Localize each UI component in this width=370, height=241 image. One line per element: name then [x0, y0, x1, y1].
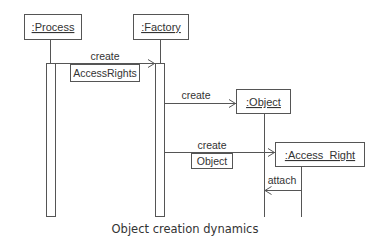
object-label: :Object	[246, 96, 281, 108]
object-process	[25, 15, 82, 217]
process-activation	[47, 64, 56, 217]
message-3-label: create	[197, 139, 226, 151]
figure-caption: Object creation dynamics	[0, 222, 370, 236]
sequence-diagram: :Process :Factory :Object :Access_Right …	[0, 0, 370, 241]
factory-label: :Factory	[141, 21, 181, 33]
message-4-label: attach	[268, 174, 297, 186]
message-1-argument: AccessRights	[73, 67, 137, 79]
process-label: :Process	[32, 21, 75, 33]
access-right-label: :Access_Right	[285, 149, 355, 161]
factory-activation	[156, 64, 165, 217]
message-attach	[265, 187, 301, 195]
message-3-argument: Object	[197, 155, 227, 167]
message-2-label: create	[181, 89, 210, 101]
object-factory	[134, 15, 189, 217]
message-1-label: create	[90, 50, 119, 62]
